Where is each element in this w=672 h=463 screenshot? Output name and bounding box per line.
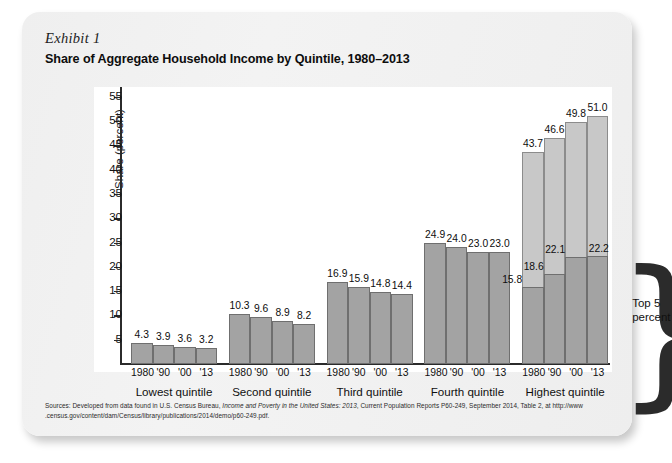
bar-segment-value-label: 22.1 [545, 244, 565, 255]
y-tick-label: 5 [98, 333, 122, 345]
x-axis-year-labels: 1980'90'00'131980'90'00'131980'90'00'131… [121, 367, 610, 383]
bar-value-label: 3.2 [199, 334, 213, 345]
bar[interactable]: 4.3 [131, 343, 153, 364]
y-tick-label: 20 [98, 260, 122, 272]
y-tick-label: 15 [98, 284, 122, 296]
bar-value-label: 16.9 [327, 268, 347, 279]
y-tick-label: 55 [98, 90, 122, 102]
bar-value-label: 46.6 [544, 124, 564, 135]
bar-value-label: 3.9 [156, 331, 170, 342]
x-axis-year-label: '13 [391, 367, 413, 378]
exhibit-label: Exhibit 1 [45, 30, 100, 47]
bar-segment-top5[interactable]: 22.2 [587, 256, 609, 364]
y-tick-label: 30 [98, 211, 122, 223]
bar-value-label: 49.8 [566, 108, 586, 119]
bar[interactable]: 15.9 [348, 287, 370, 364]
x-axis-group-label: Highest quintile [508, 385, 622, 398]
bar-value-label: 51.0 [587, 102, 607, 113]
x-axis-year-label: '90 [446, 367, 468, 378]
bar[interactable]: 3.2 [196, 348, 218, 364]
bar[interactable]: 23.0 [467, 252, 489, 364]
bar-value-label: 43.7 [523, 138, 543, 149]
x-axis-year-label: '00 [174, 367, 196, 378]
screenshot-stage: Exhibit 1 Share of Aggregate Household I… [0, 0, 672, 463]
bar[interactable]: 10.3 [229, 314, 251, 364]
source-note-line2: .census.gov/content/dam/Census/library/p… [45, 411, 611, 421]
bar[interactable]: 16.9 [327, 282, 349, 364]
bar-value-label: 10.3 [230, 300, 250, 311]
bar-value-label: 8.9 [275, 307, 289, 318]
x-axis-year-label: '90 [153, 367, 175, 378]
bar[interactable]: 24.9 [424, 243, 446, 364]
y-tick-label: 45 [98, 138, 122, 150]
top5-annotation-line1: Top 5 [632, 296, 670, 310]
x-axis-year-label: '13 [196, 367, 218, 378]
bar[interactable]: 3.9 [153, 345, 175, 364]
bar-value-label: 15.9 [349, 273, 369, 284]
y-tick-label: 50 [98, 114, 122, 126]
top5-annotation: Top 5 percent [632, 296, 670, 325]
bar-value-label: 14.4 [392, 280, 412, 291]
bar[interactable]: 8.2 [293, 324, 315, 364]
bar-segment-value-label: 18.6 [524, 261, 544, 272]
bar[interactable]: 24.0 [446, 247, 468, 364]
x-axis-year-label: 1980 [424, 367, 446, 378]
bar[interactable]: 14.8 [370, 292, 392, 364]
bar-value-label: 23.0 [490, 238, 510, 249]
x-axis-year-label: '90 [250, 367, 272, 378]
page-title: Share of Aggregate Household Income by Q… [45, 52, 410, 66]
bar-value-label: 4.3 [135, 329, 149, 340]
bar[interactable]: 9.6 [250, 317, 272, 364]
x-axis-year-label: 1980 [327, 367, 349, 378]
bar-group: 16.915.914.814.4 [327, 87, 413, 364]
bar-value-label: 23.0 [468, 238, 488, 249]
x-axis-year-label: 1980 [131, 367, 153, 378]
x-axis-year-label: 1980 [522, 367, 544, 378]
bar[interactable]: 8.9 [272, 321, 294, 364]
exhibit-card: Exhibit 1 Share of Aggregate Household I… [22, 12, 632, 436]
y-tick-label: 25 [98, 236, 122, 248]
x-axis-year-label: '00 [370, 367, 392, 378]
bar-value-label: 8.2 [297, 310, 311, 321]
x-axis-year-label: 1980 [229, 367, 251, 378]
bar-value-label: 24.0 [447, 233, 467, 244]
bar[interactable]: 3.6 [174, 347, 196, 364]
bar-value-label: 14.8 [370, 278, 390, 289]
x-axis-year-label: '13 [489, 367, 511, 378]
chart-plot-area: Share (percent) 510152025303540455055 4.… [94, 87, 612, 372]
bar-group: 4.33.93.63.2 [131, 87, 217, 364]
x-axis-year-label: '00 [272, 367, 294, 378]
bar-value-label: 9.6 [254, 303, 268, 314]
top5-annotation-line2: percent [632, 310, 670, 324]
bar-value-label: 24.9 [425, 229, 445, 240]
bar-group: 24.924.023.023.0 [424, 87, 510, 364]
bar-segment-value-label: 22.2 [589, 243, 609, 254]
y-tick-label: 10 [98, 308, 122, 320]
source-note-line1: Sources: Developed from data found in U.… [45, 401, 611, 411]
bar[interactable]: 23.0 [489, 252, 511, 364]
y-tick-label: 40 [98, 163, 122, 175]
x-axis-year-label: '00 [565, 367, 587, 378]
source-note: Sources: Developed from data found in U.… [45, 401, 611, 421]
bar-value-label: 3.6 [178, 333, 192, 344]
y-tick-label: 35 [98, 187, 122, 199]
x-axis-year-label: '90 [544, 367, 566, 378]
x-axis-year-label: '90 [348, 367, 370, 378]
bar-segment-top5[interactable]: 18.6 [544, 274, 566, 364]
x-axis-year-label: '13 [587, 367, 609, 378]
x-axis-year-label: '00 [467, 367, 489, 378]
bar-segment-value-label: 15.8 [502, 274, 522, 285]
bar-segment-top5[interactable]: 22.1 [565, 257, 587, 364]
bar-group: 43.715.846.618.649.822.151.022.2 [522, 87, 608, 364]
bar-segment-top5[interactable]: 15.8 [522, 287, 544, 364]
bar-group: 10.39.68.98.2 [229, 87, 315, 364]
bars-layer: 4.33.93.63.210.39.68.98.216.915.914.814.… [121, 87, 610, 364]
x-axis-year-label: '13 [293, 367, 315, 378]
bar[interactable]: 14.4 [391, 294, 413, 364]
